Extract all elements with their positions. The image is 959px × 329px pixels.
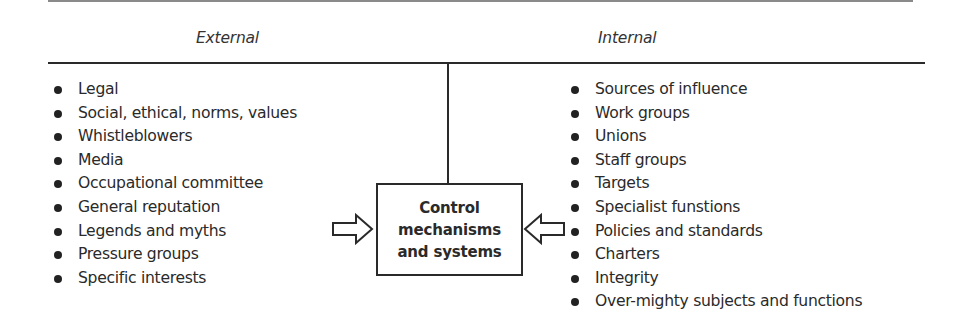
internal-factors-list: Sources of influence Work groups Unions … bbox=[571, 78, 862, 314]
bullet-dot-icon bbox=[54, 275, 62, 283]
list-item: Whistleblowers bbox=[54, 125, 297, 149]
bullet-dot-icon bbox=[54, 110, 62, 118]
list-item: Charters bbox=[571, 243, 862, 267]
list-item: Sources of influence bbox=[571, 78, 862, 102]
external-heading: External bbox=[196, 29, 259, 47]
list-item: Over-mighty subjects and functions bbox=[571, 290, 862, 314]
list-item: Legal bbox=[54, 78, 297, 102]
list-item: Media bbox=[54, 149, 297, 173]
list-item: General reputation bbox=[54, 196, 297, 220]
bullet-dot-icon bbox=[571, 133, 579, 141]
box-line-3: and systems bbox=[397, 241, 501, 263]
bullet-dot-icon bbox=[571, 204, 579, 212]
list-item: Specialist funstions bbox=[571, 196, 862, 220]
box-line-1: Control bbox=[419, 197, 480, 219]
bullet-dot-icon bbox=[54, 180, 62, 188]
bullet-dot-icon bbox=[571, 110, 579, 118]
list-item: Occupational committee bbox=[54, 172, 297, 196]
bullet-dot-icon bbox=[571, 298, 579, 306]
list-item: Legends and myths bbox=[54, 220, 297, 244]
center-connector-line bbox=[447, 63, 449, 184]
list-item: Policies and standards bbox=[571, 220, 862, 244]
list-item: Work groups bbox=[571, 102, 862, 126]
list-item: Integrity bbox=[571, 267, 862, 291]
box-line-2: mechanisms bbox=[398, 219, 501, 241]
list-item: Pressure groups bbox=[54, 243, 297, 267]
arrow-right-outline-icon bbox=[332, 213, 374, 245]
bullet-dot-icon bbox=[54, 204, 62, 212]
bullet-dot-icon bbox=[571, 86, 579, 94]
list-item: Social, ethical, norms, values bbox=[54, 102, 297, 126]
bullet-dot-icon bbox=[571, 180, 579, 188]
external-factors-list: Legal Social, ethical, norms, values Whi… bbox=[54, 78, 297, 290]
header-divider bbox=[48, 62, 925, 64]
top-border-rule bbox=[48, 0, 913, 2]
list-item: Unions bbox=[571, 125, 862, 149]
list-item: Staff groups bbox=[571, 149, 862, 173]
bullet-dot-icon bbox=[571, 157, 579, 165]
bullet-dot-icon bbox=[54, 228, 62, 236]
bullet-dot-icon bbox=[571, 251, 579, 259]
list-item: Specific interests bbox=[54, 267, 297, 291]
control-mechanisms-box: Control mechanisms and systems bbox=[376, 183, 523, 276]
bullet-dot-icon bbox=[54, 133, 62, 141]
bullet-dot-icon bbox=[54, 86, 62, 94]
arrow-left-outline-icon bbox=[523, 213, 565, 245]
list-item: Targets bbox=[571, 172, 862, 196]
internal-heading: Internal bbox=[598, 29, 656, 47]
bullet-dot-icon bbox=[571, 228, 579, 236]
bullet-dot-icon bbox=[54, 157, 62, 165]
bullet-dot-icon bbox=[571, 275, 579, 283]
bullet-dot-icon bbox=[54, 251, 62, 259]
